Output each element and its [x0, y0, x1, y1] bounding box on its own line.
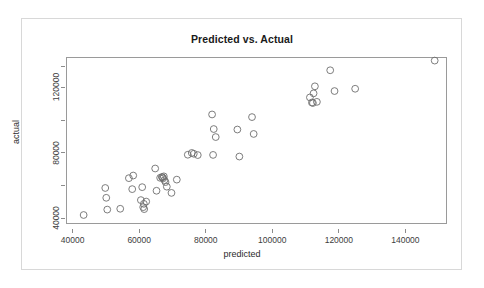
y-axis-tick: [61, 120, 65, 121]
x-axis-tick: [338, 229, 339, 233]
x-axis-tick: [205, 229, 206, 233]
y-axis-tick: [61, 218, 65, 219]
y-axis-label: actual: [11, 120, 21, 144]
chart-title: Predicted vs. Actual: [0, 33, 484, 45]
x-axis-label: predicted: [0, 249, 484, 259]
x-axis-tick-label: 140000: [391, 235, 419, 245]
y-axis-tick: [61, 87, 65, 88]
x-axis-tick: [72, 229, 73, 233]
x-axis-tick-label: 40000: [61, 235, 85, 245]
x-axis-tick: [139, 229, 140, 233]
x-axis-tick: [405, 229, 406, 233]
y-axis-tick-label: 40000: [51, 206, 61, 230]
chart-canvas: Predicted vs. Actual 4000060000800001000…: [0, 0, 484, 288]
y-axis-tick: [61, 185, 65, 186]
x-axis-tick-label: 100000: [258, 235, 286, 245]
y-axis-tick: [61, 152, 65, 153]
y-axis-tick: [61, 66, 65, 67]
x-axis-tick-label: 60000: [127, 235, 151, 245]
y-axis-tick-label: 120000: [51, 73, 61, 101]
y-axis-tick-label: 80000: [51, 141, 61, 165]
plot-area-border: [66, 57, 447, 224]
x-axis-tick-label: 120000: [325, 235, 353, 245]
x-axis-tick-label: 80000: [194, 235, 218, 245]
x-axis-tick: [272, 229, 273, 233]
